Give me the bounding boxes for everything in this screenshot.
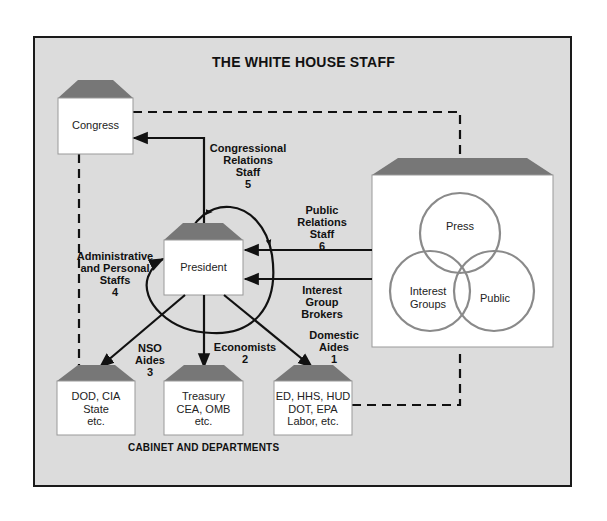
congress-arrow — [134, 138, 204, 223]
president-label: President — [164, 261, 243, 274]
economists-label: Economists 2 — [210, 341, 280, 365]
congress-label: Congress — [58, 119, 133, 132]
treasury-label: Treasury CEA, OMB etc. — [164, 390, 243, 428]
dod-label: DOD, CIA State etc. — [57, 390, 135, 428]
public-label: Public — [470, 292, 520, 305]
diagram-title: THE WHITE HOUSE STAFF — [0, 54, 607, 70]
public-relations-label: Public Relations Staff 6 — [292, 204, 352, 252]
cabinet-footer: CABINET AND DEPARTMENTS — [128, 442, 279, 453]
admin-staff-label: Administrative and Personal Staffs 4 — [75, 250, 155, 298]
domestic-label: ED, HHS, HUD DOT, EPA Labor, etc. — [272, 390, 354, 428]
interest-groups-label: Interest Groups — [398, 285, 458, 310]
interest-brokers-label: Interest Group Brokers — [292, 284, 352, 320]
nso-aides-label: NSO Aides 3 — [130, 342, 170, 378]
public-sphere-node — [372, 158, 553, 347]
domestic-aides-label: Domestic Aides 1 — [304, 329, 364, 365]
president-node — [164, 223, 243, 295]
congressional-relations-label: Congressional Relations Staff 5 — [203, 142, 293, 190]
press-label: Press — [430, 220, 490, 233]
congress-node — [58, 80, 133, 154]
